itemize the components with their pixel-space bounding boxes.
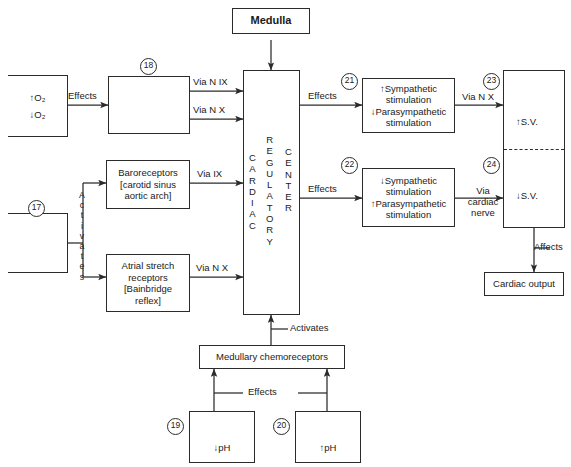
- regulatory-letter-char-9: Y: [267, 236, 273, 247]
- box21-line4: stimulation: [386, 117, 431, 129]
- diagram-canvas: Medulla ↑O₂ ↓O₂ 18 17 Baroreceptors [car…: [0, 0, 571, 467]
- baroreceptors-line2: [carotid sinus: [120, 179, 176, 191]
- edge-label-effects-21: Effects: [308, 90, 337, 101]
- node-oxygen-levels: ↑O₂ ↓O₂: [8, 75, 68, 137]
- answer-box-18[interactable]: [108, 76, 190, 134]
- regulatory-letter-char-7: O: [266, 213, 273, 224]
- edge-label-effects-22: Effects: [308, 183, 337, 194]
- node-atrial-stretch-receptors: Atrial stretch receptors [Bainbridge ref…: [106, 254, 190, 312]
- edge-label-via-n-x-sv: Via N X: [462, 91, 494, 102]
- regulatory-letter-char-0: R: [266, 134, 273, 145]
- node-sympathetic-increase: ↑Sympathetic stimulation ↓Parasympatheti…: [362, 78, 455, 133]
- box21-line1: ↑Sympathetic: [380, 83, 437, 95]
- via-cardiac-nerve-line1: Via: [460, 185, 506, 196]
- stroke-volume-divider: [504, 149, 564, 150]
- number-badge-19: 19: [167, 418, 184, 435]
- center-letter-char-0: C: [285, 146, 292, 157]
- node-medulla: Medulla: [232, 8, 310, 34]
- activates-letter-char-3: i: [81, 221, 83, 231]
- activates-letter-char-8: s: [80, 272, 84, 282]
- edge-label-via-n-x-top: Via N X: [193, 104, 225, 115]
- via-cardiac-nerve-line3: nerve: [460, 207, 506, 218]
- medullary-chemoreceptors-label: Medullary chemoreceptors: [216, 351, 328, 363]
- atrial-line4: reflex]: [135, 295, 161, 307]
- node-cardiac-output: Cardiac output: [484, 272, 564, 296]
- box22-line4: stimulation: [386, 209, 431, 221]
- cardiac-letter-char-0: C: [249, 152, 256, 163]
- cardiac-output-label: Cardiac output: [493, 278, 555, 290]
- medulla-label: Medulla: [251, 15, 292, 27]
- center-letter-char-2: N: [285, 169, 292, 180]
- number-badge-24: 24: [483, 157, 500, 174]
- atrial-line3: [Bainbridge: [124, 283, 172, 295]
- ph-increase-label: ↑pH: [320, 442, 337, 454]
- center-letter-char-4: E: [285, 191, 291, 202]
- number-badge-17: 17: [28, 200, 45, 217]
- edge-label-activates-bottom: Activates: [290, 322, 329, 333]
- atrial-line1: Atrial stretch: [122, 260, 175, 272]
- oxygen-decrease-label: ↓O₂: [30, 109, 46, 121]
- number-badge-18: 18: [140, 58, 157, 75]
- edge-label-via-n-x-atrial: Via N X: [196, 262, 228, 273]
- center-letter-char-1: E: [285, 157, 291, 168]
- box22-line2: stimulation: [386, 186, 431, 198]
- edge-label-activates-left: Activates: [79, 190, 85, 282]
- box21-line2: stimulation: [386, 94, 431, 106]
- regulatory-letter-char-1: E: [267, 145, 273, 156]
- number-badge-20: 20: [273, 418, 290, 435]
- node-ph-decrease: ↓pH: [189, 411, 255, 463]
- center-letter-char-3: T: [286, 180, 292, 191]
- box22-line3: ↑Parasympathetic: [371, 198, 447, 210]
- box21-line3: ↓Parasympathetic: [371, 106, 447, 118]
- activates-letter-char-2: t: [81, 210, 83, 220]
- cardiac-letter-char-1: A: [249, 163, 255, 174]
- regulatory-letter-char-4: L: [267, 179, 272, 190]
- cardiac-center-col-cardiac: CARDIAC: [249, 152, 256, 231]
- regulatory-letter-char-8: R: [266, 224, 273, 235]
- activates-letter-char-4: v: [80, 231, 84, 241]
- node-medullary-chemoreceptors: Medullary chemoreceptors: [199, 345, 345, 369]
- cardiac-letter-char-3: D: [249, 186, 256, 197]
- cardiac-letter-char-2: R: [249, 175, 256, 186]
- atrial-line2: receptors: [128, 272, 168, 284]
- edge-label-affects: Affects: [534, 241, 563, 252]
- answer-box-17[interactable]: [8, 213, 68, 273]
- number-badge-21: 21: [341, 73, 358, 90]
- stroke-volume-increase-label: ↑S.V.: [516, 116, 538, 127]
- ph-decrease-label: ↓pH: [214, 442, 231, 454]
- node-baroreceptors: Baroreceptors [carotid sinus aortic arch…: [106, 160, 190, 209]
- cardiac-letter-char-4: I: [251, 197, 254, 208]
- edge-label-via-cardiac-nerve: Via cardiac nerve: [460, 185, 506, 218]
- baroreceptors-line1: Baroreceptors: [118, 167, 178, 179]
- cardiac-letter-char-5: A: [249, 208, 255, 219]
- edge-label-effects-oxygen: Effects: [68, 90, 97, 101]
- activates-letter-char-1: c: [80, 200, 84, 210]
- node-sympathetic-decrease: ↓Sympathetic stimulation ↑Parasympatheti…: [362, 168, 455, 227]
- regulatory-letter-char-5: A: [267, 190, 273, 201]
- activates-letter-char-5: a: [79, 241, 84, 251]
- edge-label-via-ix: Via IX: [197, 168, 222, 179]
- oxygen-increase-label: ↑O₂: [30, 92, 46, 104]
- cardiac-center-col-regulatory: REGULATORY: [266, 134, 273, 247]
- edge-label-via-n-ix: Via N IX: [193, 76, 228, 87]
- activates-letter-char-7: e: [79, 261, 84, 271]
- edge-label-effects-bottom: Effects: [248, 386, 277, 397]
- via-cardiac-nerve-line2: cardiac: [460, 196, 506, 207]
- center-letter-char-5: R: [285, 202, 292, 213]
- regulatory-letter-char-6: T: [267, 202, 273, 213]
- box22-line1: ↓Sympathetic: [380, 175, 437, 187]
- node-ph-increase: ↑pH: [295, 411, 361, 463]
- regulatory-letter-char-2: G: [266, 157, 273, 168]
- number-badge-23: 23: [483, 73, 500, 90]
- cardiac-letter-char-6: C: [249, 220, 256, 231]
- regulatory-letter-char-3: U: [266, 168, 273, 179]
- baroreceptors-line3: aortic arch]: [125, 190, 172, 202]
- stroke-volume-decrease-label: ↓S.V.: [516, 190, 538, 201]
- number-badge-22: 22: [341, 157, 358, 174]
- activates-letter-char-6: t: [81, 251, 83, 261]
- activates-letter-char-0: A: [79, 190, 85, 200]
- cardiac-center-col-center: CENTER: [285, 146, 292, 214]
